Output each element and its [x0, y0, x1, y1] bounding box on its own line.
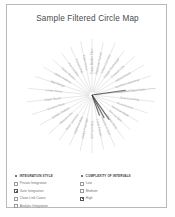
integration-style-item[interactable]: Analytic Integration — [14, 203, 76, 209]
legend-column-complexity: COMPLEXITY OF INTERVALS LowMediumHigh — [80, 173, 160, 203]
integration-style-label: Private Integration — [20, 182, 47, 185]
page-frame: Sample Filtered Circle Map Cross Border … — [6, 4, 167, 208]
legend-items-complexity: LowMediumHigh — [80, 180, 160, 201]
legend-marker-icon — [80, 174, 84, 178]
legend-header-label: INTEGRATION STYLE — [20, 175, 53, 178]
legend-marker-icon — [14, 174, 18, 178]
circle-map-page: Sample Filtered Circle Map Cross Border … — [0, 0, 175, 217]
spoke-label: Interior Loop — [90, 121, 94, 139]
legend-header-label: COMPLEXITY OF INTERVALS — [86, 175, 131, 178]
legend: INTEGRATION STYLE Private IntegrationGat… — [14, 173, 162, 207]
legend-header-integration-style: INTEGRATION STYLE — [14, 173, 76, 179]
radial-spoke-svg: Cross Border FlowRegional TransitUrban C… — [8, 27, 167, 167]
spoke-label: Cross Border Flow — [90, 48, 94, 74]
checkbox-icon[interactable] — [14, 204, 18, 208]
checkbox-checked-icon[interactable] — [14, 189, 18, 193]
integration-style-item[interactable]: Private Integration — [14, 180, 76, 186]
spoke-label: Upper Basin — [44, 96, 62, 102]
legend-items-integration-style: Private IntegrationGate IntegrationClean… — [14, 180, 76, 209]
checkbox-icon[interactable] — [80, 182, 84, 186]
spoke-label: Mid Range — [50, 79, 66, 88]
spoke-label: Integrated Open Core — [115, 87, 145, 94]
integration-style-label: Gate Integration — [20, 190, 44, 193]
checkbox-icon[interactable] — [14, 197, 18, 201]
integration-style-item[interactable]: Gate Integration — [14, 188, 76, 194]
integration-style-item[interactable]: Clean Link Cases — [14, 195, 76, 201]
page-title: Sample Filtered Circle Map — [7, 14, 168, 23]
complexity-label: Low — [86, 182, 92, 185]
integration-style-label: Analytic Integration — [20, 205, 48, 208]
checkbox-checked-icon[interactable] — [80, 197, 84, 201]
spoke-label: Rail Crossing — [120, 96, 139, 102]
circle-map-plot: Cross Border FlowRegional TransitUrban C… — [8, 27, 167, 167]
checkbox-icon[interactable] — [14, 182, 18, 186]
complexity-label: Medium — [86, 190, 98, 193]
spoke-label: Lower Basin — [45, 88, 63, 94]
integration-style-label: Clean Link Cases — [20, 197, 46, 200]
legend-header-complexity: COMPLEXITY OF INTERVALS — [80, 173, 160, 179]
complexity-item[interactable]: Medium — [80, 188, 160, 194]
checkbox-icon[interactable] — [80, 189, 84, 193]
complexity-item[interactable]: High — [80, 195, 160, 201]
legend-column-integration-style: INTEGRATION STYLE Private IntegrationGat… — [14, 173, 76, 210]
complexity-label: High — [86, 197, 93, 200]
complexity-item[interactable]: Low — [80, 180, 160, 186]
